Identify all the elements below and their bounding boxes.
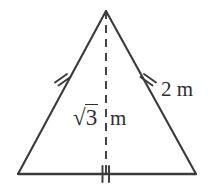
triangle-left-side — [18, 11, 106, 174]
geometry-figure: √3 m 2 m — [0, 0, 209, 186]
radicand-value: 3 — [85, 104, 99, 129]
side-length-label: 2 m — [161, 79, 193, 100]
altitude-unit-label: m — [110, 108, 126, 129]
radical-group: √3 — [72, 104, 98, 129]
left-side-congruence-ticks — [55, 74, 71, 86]
altitude-length-label: √3 — [72, 104, 98, 129]
